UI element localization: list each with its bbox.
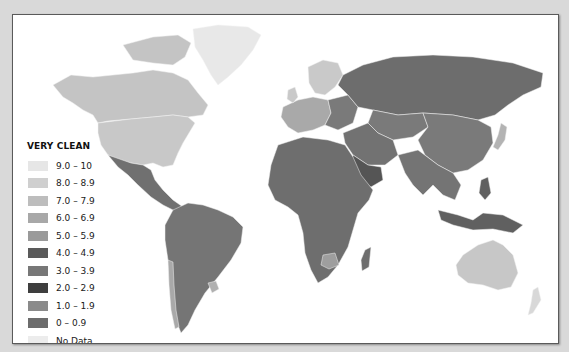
legend-swatch [28, 178, 48, 188]
region-canada [53, 70, 208, 123]
region-japan [493, 123, 507, 150]
legend-swatch [28, 196, 48, 206]
legend-item: 5.0 – 5.9 [27, 227, 137, 245]
legend-swatch [28, 161, 48, 171]
legend-item: 6.0 – 6.9 [27, 210, 137, 228]
legend-title-very-clean: VERY CLEAN [27, 141, 137, 151]
legend-swatch [28, 213, 48, 223]
legend-item: 3.0 – 3.9 [27, 262, 137, 280]
region-europe-west [281, 97, 331, 133]
legend-item: 9.0 – 10 [27, 157, 137, 175]
region-greenland [193, 25, 261, 85]
legend-label: No Data [56, 336, 93, 344]
legend-label: 0 – 0.9 [56, 318, 86, 328]
legend-swatch [28, 266, 48, 276]
legend-item: 7.0 – 7.9 [27, 192, 137, 210]
legend-swatch [28, 336, 48, 344]
legend-label: 1.0 – 1.9 [56, 301, 95, 311]
legend-item: 4.0 – 4.9 [27, 245, 137, 263]
legend-swatch [28, 301, 48, 311]
legend-item: No Data [27, 332, 137, 344]
legend-swatch [28, 248, 48, 258]
legend-label: 8.0 – 8.9 [56, 178, 95, 188]
legend-swatch [28, 283, 48, 293]
legend-swatch [28, 318, 48, 328]
region-russia [338, 55, 543, 120]
region-uruguay [208, 281, 219, 293]
region-australia [456, 240, 518, 290]
region-new-zealand [528, 287, 541, 315]
legend-item: 2.0 – 2.9 [27, 280, 137, 298]
legend-item: 8.0 – 8.9 [27, 175, 137, 193]
legend-label: 5.0 – 5.9 [56, 231, 95, 241]
legend-label: 2.0 – 2.9 [56, 283, 95, 293]
region-madagascar [361, 247, 371, 271]
legend-item: 0 – 0.9 [27, 315, 137, 333]
legend: VERY CLEAN 9.0 – 10 8.0 – 8.9 7.0 – 7.9 … [27, 141, 137, 344]
legend-item: 1.0 – 1.9 [27, 297, 137, 315]
region-philippines [479, 177, 491, 200]
legend-label: 3.0 – 3.9 [56, 266, 95, 276]
map-frame: VERY CLEAN 9.0 – 10 8.0 – 8.9 7.0 – 7.9 … [12, 14, 559, 344]
legend-label: 9.0 – 10 [56, 161, 92, 171]
legend-label: 4.0 – 4.9 [56, 248, 95, 258]
legend-swatch [28, 231, 48, 241]
region-indonesia [438, 210, 523, 233]
legend-label: 6.0 – 6.9 [56, 213, 95, 223]
region-canada-arctic [123, 35, 191, 65]
region-scandinavia [308, 60, 343, 95]
legend-label: 7.0 – 7.9 [56, 196, 95, 206]
